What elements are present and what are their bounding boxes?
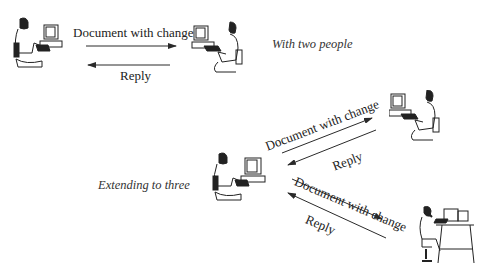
top-send-label: Document with change: [73, 26, 194, 40]
diagram-canvas: Document with change Reply With two peop…: [0, 0, 491, 273]
woman-at-computer-icon: [6, 15, 66, 75]
man-at-computer-icon: [190, 20, 252, 75]
man-at-computer-icon: [389, 90, 449, 145]
top-caption: With two people: [272, 37, 353, 52]
man-at-desk-on-phone-icon: [418, 205, 478, 267]
top-reply-label: Reply: [120, 69, 151, 83]
bottom-caption: Extending to three: [98, 178, 190, 193]
woman-at-computer-icon: [203, 150, 269, 205]
